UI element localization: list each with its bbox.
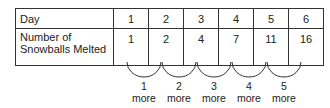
arc-2 (162, 62, 196, 77)
difference-amount: 2 (159, 80, 199, 92)
difference-word: more (264, 92, 304, 104)
arc-4 (232, 62, 266, 77)
difference-label: 2 more (159, 80, 199, 104)
difference-word: more (229, 92, 269, 104)
difference-amount: 1 (124, 80, 164, 92)
difference-label: 4 more (229, 80, 269, 104)
difference-label: 1 more (124, 80, 164, 104)
difference-amount: 5 (264, 80, 304, 92)
difference-label: 3 more (194, 80, 234, 104)
difference-label: 5 more (264, 80, 304, 104)
difference-word: more (159, 92, 199, 104)
difference-word: more (124, 92, 164, 104)
difference-amount: 4 (229, 80, 269, 92)
arc-1 (127, 62, 161, 77)
arc-5 (267, 62, 301, 77)
difference-amount: 3 (194, 80, 234, 92)
arc-3 (197, 62, 231, 77)
difference-word: more (194, 92, 234, 104)
